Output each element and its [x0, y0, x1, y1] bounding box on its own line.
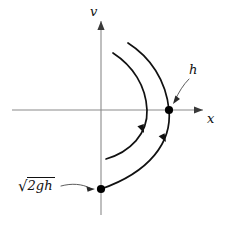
- radical-expression: √2gh: [17, 177, 55, 194]
- inner-trajectory-curve: [106, 53, 147, 159]
- v-axis-arrowhead: [97, 21, 104, 30]
- inner-trajectory-direction-arrowhead: [137, 124, 144, 133]
- h-annotation-label: h: [189, 63, 197, 76]
- x-axis-label: x: [207, 112, 214, 125]
- x-axis-arrowhead: [194, 106, 203, 113]
- radicand-text: 2gh: [27, 177, 55, 192]
- outer-trajectory-direction-arrowhead: [159, 133, 166, 142]
- marker-dot-h: [165, 106, 173, 114]
- sqrt2gh-leader-arrowhead: [86, 186, 95, 191]
- phase-plane-figure: v x h √2gh: [0, 0, 230, 227]
- v-axis-label: v: [90, 5, 97, 18]
- sqrt2gh-annotation-label: √2gh: [17, 177, 55, 194]
- outer-trajectory-curve: [101, 43, 169, 189]
- sqrt2gh-leader-line: [61, 184, 90, 188]
- marker-dot-sqrt2gh: [97, 185, 105, 193]
- h-leader-arrowhead: [173, 96, 180, 104]
- h-leader-line: [175, 79, 189, 100]
